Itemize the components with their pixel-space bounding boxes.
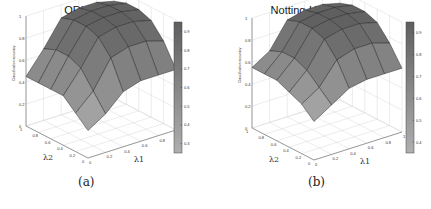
- colorbar-tick-label: 0.5: [416, 118, 422, 123]
- x-tick-label: 0: [315, 162, 318, 167]
- colorbar-tick-label: 0.5: [184, 104, 190, 109]
- x-tick-label: 0: [89, 160, 92, 165]
- z-tick-label: 0.8: [19, 36, 25, 41]
- z-tick-label: 0.6: [245, 60, 251, 65]
- y-axis-label: λ2: [269, 155, 279, 164]
- figure-caption: (a): [78, 175, 95, 189]
- colorbar: 0.30.40.50.60.70.80.9: [174, 22, 190, 153]
- colorbar-tick-label: 0.4: [416, 140, 422, 145]
- y-tick-label: 0.6: [271, 142, 277, 147]
- x-tick-label: 0.4: [350, 151, 356, 156]
- colorbar-tick-label: 0.8: [184, 48, 190, 53]
- z-axis-label: Classification accuracy: [238, 47, 242, 83]
- y-tick-label: 0.4: [57, 146, 63, 151]
- x-tick-label: 0.2: [333, 156, 339, 161]
- z-tick-label: 1: [245, 16, 248, 21]
- x-tick-label: 0.6: [368, 145, 374, 150]
- y-axis-label: λ2: [43, 153, 53, 162]
- x-tick-label: 0.2: [107, 154, 113, 159]
- x-tick-label: 0.8: [159, 138, 165, 143]
- colorbar: 0.40.50.60.70.80.9: [406, 22, 422, 153]
- z-tick-label: 0.6: [19, 58, 25, 63]
- y-tick-label: 0: [308, 161, 311, 166]
- z-tick-label: 0.2: [245, 104, 251, 109]
- z-tick-label: 0.8: [245, 38, 251, 43]
- x-tick-label: 0.4: [124, 149, 130, 154]
- z-tick-label: 0.2: [19, 102, 25, 107]
- y-tick-label: 0.2: [70, 153, 76, 158]
- surface: [26, 1, 176, 130]
- panel-notting-hill: Notting-Hill 000.20.20.40.40.60.60.80.81…: [216, 0, 431, 209]
- surface-plot-notting-hill: 000.20.20.40.40.60.60.80.81100.20.40.60.…: [216, 0, 431, 175]
- x-tick-label: 0.8: [385, 140, 391, 145]
- colorbar-tick-label: 0.7: [184, 66, 190, 71]
- colorbar-tick-label: 0.8: [416, 52, 422, 57]
- surface-plot-orl: 000.20.20.40.40.60.60.80.81100.20.40.60.…: [0, 0, 215, 175]
- y-tick-label: 0.4: [283, 148, 289, 153]
- y-tick-label: 0.6: [45, 140, 51, 145]
- y-tick-label: 0: [82, 159, 85, 164]
- x-tick-label: 1: [403, 134, 406, 139]
- figure-caption: (b): [308, 175, 325, 189]
- surface: [252, 3, 402, 121]
- colorbar-tick-label: 0.3: [184, 141, 190, 146]
- colorbar-tick-label: 0.6: [184, 85, 190, 90]
- z-tick-label: 0.4: [245, 82, 251, 87]
- colorbar-tick-label: 0.6: [416, 96, 422, 101]
- colorbar-tick-label: 0.9: [184, 29, 190, 34]
- y-tick-label: 0.2: [296, 155, 302, 160]
- colorbar-tick-label: 0.7: [416, 74, 422, 79]
- x-axis-label: λ1: [134, 155, 144, 164]
- x-tick-label: 0.6: [142, 143, 148, 148]
- y-tick-label: 0.8: [32, 133, 38, 138]
- colorbar-tick-label: 0.9: [416, 30, 422, 35]
- y-tick-label: 0.8: [258, 135, 264, 140]
- z-axis-label: Classification accuracy: [12, 45, 16, 81]
- x-axis-label: λ1: [360, 157, 370, 166]
- colorbar-tick-label: 0.4: [184, 122, 190, 127]
- panel-orl: ORL 000.20.20.40.40.60.60.80.81100.20.40…: [0, 0, 215, 209]
- z-tick-label: 1: [19, 14, 22, 19]
- z-tick-label: 0.4: [19, 80, 25, 85]
